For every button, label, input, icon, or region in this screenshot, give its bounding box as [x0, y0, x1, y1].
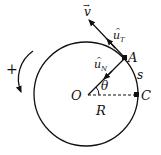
- unit-tangent-subscript: T: [120, 36, 126, 44]
- unit-normal-subscript: N: [100, 65, 108, 73]
- point-c-marker: [134, 92, 139, 97]
- diagram-canvas: v → ^ u T ^ u N A s θ O C R +: [0, 0, 161, 155]
- point-c-label: C: [141, 88, 151, 103]
- circular-motion-diagram: v → ^ u T ^ u N A s θ O C R +: [0, 0, 161, 155]
- angle-label: θ: [101, 79, 109, 93]
- arc-length-label: s: [137, 68, 143, 82]
- positive-rotation-arrow: [18, 51, 33, 92]
- positive-direction-label: +: [6, 61, 18, 77]
- radius-label: R: [95, 103, 106, 118]
- point-a-label: A: [127, 50, 137, 65]
- velocity-vector-arrow: →: [83, 1, 90, 10]
- angle-arc: [96, 87, 99, 95]
- point-a-marker: [122, 55, 127, 60]
- origin-label: O: [71, 88, 82, 103]
